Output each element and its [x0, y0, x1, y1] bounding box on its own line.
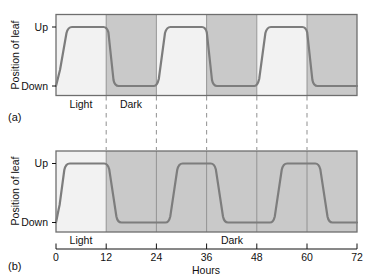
x-axis-ticks [56, 244, 357, 250]
panel-a-y-label-up: Up [35, 21, 49, 33]
figure-svg: Up Down Position of leaf Light Dark (a) [0, 0, 370, 279]
x-axis-title: Hours [192, 264, 220, 276]
x-tick-label-24: 24 [151, 251, 163, 263]
panel-a-y-axis-title: Position of leaf [9, 20, 21, 89]
x-tick-label-36: 36 [201, 251, 213, 263]
panel-b-y-label-up: Up [35, 157, 49, 169]
panel-a-y-label-down: Down [21, 80, 48, 92]
circadian-leaf-movement-figure: Up Down Position of leaf Light Dark (a) [0, 0, 370, 279]
x-tick-label-48: 48 [251, 251, 263, 263]
panel-b-light-label: Light [70, 234, 93, 246]
panel-a-dark-label: Dark [120, 98, 143, 110]
x-tick-label-72: 72 [351, 251, 363, 263]
x-tick-label-12: 12 [100, 251, 112, 263]
x-axis: 0 12 24 36 48 60 72 Hours [53, 244, 363, 277]
panel-a: Up Down Position of leaf Light Dark (a) [8, 15, 357, 124]
x-tick-label-60: 60 [301, 251, 313, 263]
x-axis-tick-labels: 0 12 24 36 48 60 72 [53, 251, 363, 263]
panel-b-dark-label: Dark [221, 234, 244, 246]
x-tick-label-0: 0 [53, 251, 59, 263]
panel-a-label: (a) [8, 111, 21, 123]
panel-b-y-label-down: Down [21, 216, 48, 228]
panel-a-light-label: Light [70, 98, 93, 110]
panel-b-y-axis-title: Position of leaf [9, 156, 21, 225]
panel-b-band-dark-1 [106, 151, 357, 232]
panel-b-label: (b) [8, 260, 21, 272]
